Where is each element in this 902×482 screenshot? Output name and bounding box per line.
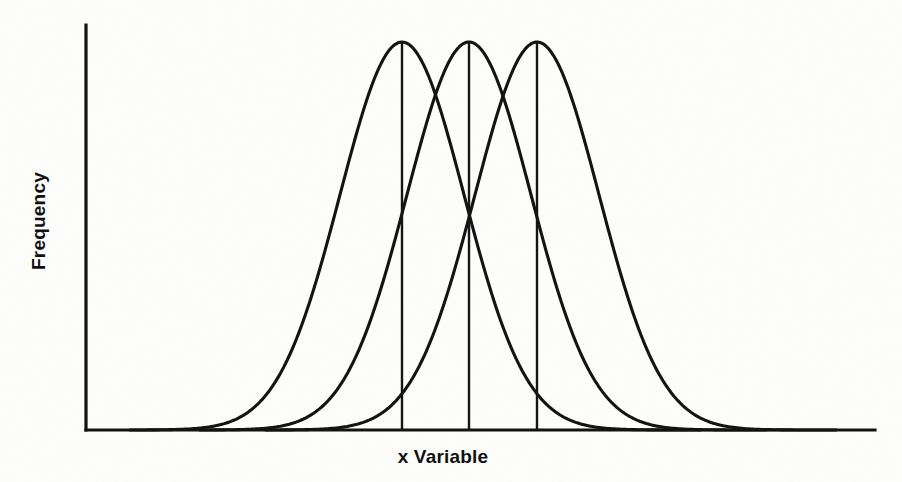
- paper-grain-texture: [0, 0, 902, 482]
- y-axis-label: Frequency: [28, 151, 50, 291]
- distribution-curve: [200, 42, 766, 430]
- mean-lines-group: [402, 42, 537, 430]
- figure-root: Frequency x Variable: [0, 0, 902, 482]
- x-axis-label: x Variable: [0, 446, 902, 468]
- distribution-curve: [266, 42, 836, 430]
- curves-group: [130, 42, 836, 430]
- axes-group: [86, 25, 875, 430]
- x-axis-label-text: x Variable: [398, 446, 489, 468]
- distribution-plot: [0, 0, 902, 482]
